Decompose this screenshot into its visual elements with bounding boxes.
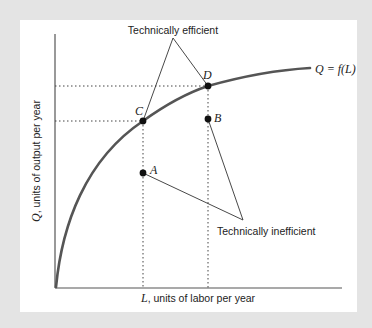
y-axis-variable: Q bbox=[29, 213, 43, 222]
y-axis-text: , units of output per year bbox=[30, 100, 42, 214]
point-a-label: A bbox=[149, 163, 158, 177]
production-function-diagram: C D B A Q = f(L) Technically efficient T… bbox=[0, 0, 372, 328]
inefficient-leaders bbox=[143, 119, 243, 220]
inefficient-annotation: Technically inefficient bbox=[217, 225, 316, 237]
y-axis-label: Q, units of output per year bbox=[29, 100, 43, 222]
efficient-annotation: Technically efficient bbox=[128, 24, 218, 36]
x-axis-text: , units of labor per year bbox=[148, 292, 256, 304]
production-curve bbox=[56, 68, 310, 287]
curve-label: Q = f(L) bbox=[315, 62, 356, 76]
point-c-marker bbox=[140, 118, 147, 125]
x-axis-label: L, units of labor per year bbox=[140, 291, 256, 305]
guide-lines bbox=[55, 86, 208, 288]
point-b-marker bbox=[205, 116, 212, 123]
point-d-label: D bbox=[202, 68, 212, 82]
point-c-label: C bbox=[135, 104, 144, 118]
point-b-label: B bbox=[214, 111, 222, 125]
point-a-marker bbox=[140, 170, 147, 177]
efficient-leaders bbox=[143, 38, 208, 121]
point-d-marker bbox=[205, 83, 212, 90]
